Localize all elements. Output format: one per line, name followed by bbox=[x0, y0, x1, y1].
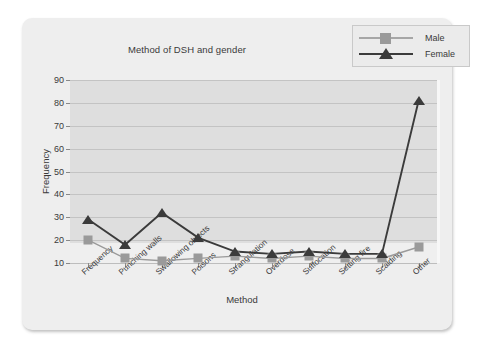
data-point-male-2 bbox=[157, 256, 166, 265]
triangle-marker-icon bbox=[379, 48, 393, 59]
data-point-female-3 bbox=[192, 233, 204, 242]
series-lines bbox=[70, 80, 437, 263]
y-tick-label-70: 70 bbox=[38, 121, 64, 131]
legend-label-female: Female bbox=[415, 49, 455, 59]
legend-item-female: Female bbox=[353, 46, 469, 62]
chart-legend: Male Female bbox=[352, 25, 470, 67]
data-point-male-9 bbox=[414, 242, 423, 251]
data-point-female-9 bbox=[413, 96, 425, 105]
legend-symbol-male bbox=[357, 31, 415, 45]
data-point-female-1 bbox=[119, 240, 131, 249]
y-tick-label-10: 10 bbox=[38, 258, 64, 268]
y-tick-label-90: 90 bbox=[38, 75, 64, 85]
x-axis-title: Method bbox=[62, 294, 422, 305]
data-point-female-5 bbox=[266, 249, 278, 258]
square-marker-icon bbox=[380, 33, 391, 44]
data-point-male-3 bbox=[194, 254, 203, 263]
chart-title: Method of DSH and gender bbox=[22, 44, 352, 55]
data-point-female-8 bbox=[376, 249, 388, 258]
y-tick-label-60: 60 bbox=[38, 144, 64, 154]
y-tick-label-50: 50 bbox=[38, 167, 64, 177]
data-point-female-0 bbox=[82, 215, 94, 224]
y-tick-label-80: 80 bbox=[38, 98, 64, 108]
legend-item-male: Male bbox=[353, 30, 469, 46]
y-tick-label-30: 30 bbox=[38, 212, 64, 222]
data-point-female-2 bbox=[156, 208, 168, 217]
y-tick-mark-10 bbox=[66, 263, 70, 264]
data-point-female-7 bbox=[339, 249, 351, 258]
screenshot-root: Method of DSH and gender Male Female Fre… bbox=[0, 0, 481, 348]
data-point-female-6 bbox=[303, 247, 315, 256]
chart-panel: Method of DSH and gender Male Female Fre… bbox=[22, 18, 452, 330]
y-tick-label-20: 20 bbox=[38, 235, 64, 245]
data-point-male-1 bbox=[121, 254, 130, 263]
legend-symbol-female bbox=[357, 47, 415, 61]
legend-label-male: Male bbox=[415, 33, 445, 43]
data-point-female-4 bbox=[229, 247, 241, 256]
data-point-male-0 bbox=[84, 236, 93, 245]
series-line-female bbox=[88, 101, 418, 254]
series-line-male bbox=[88, 240, 418, 261]
y-tick-label-40: 40 bbox=[38, 189, 64, 199]
